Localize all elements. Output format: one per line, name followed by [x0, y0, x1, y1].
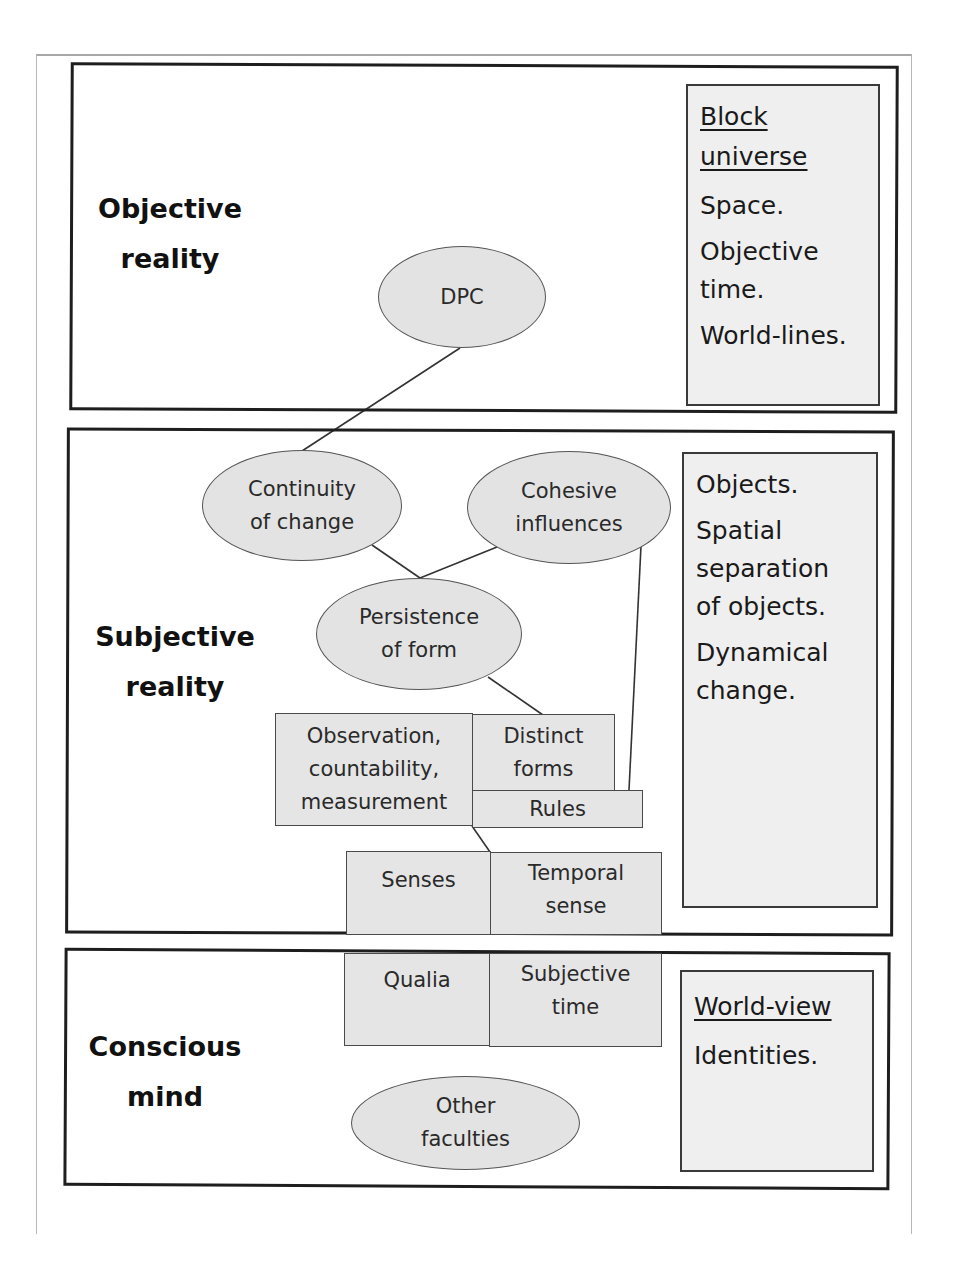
node-distinct-forms: Distinct forms — [472, 714, 615, 791]
node-label: Observation, — [307, 720, 442, 753]
section-label-conscious-mind: Conscious mind — [80, 1022, 250, 1122]
label-line: reality — [80, 234, 260, 284]
node-label: Senses — [381, 864, 455, 897]
side-box-item: Space. — [700, 187, 866, 225]
node-label: sense — [545, 890, 606, 923]
label-line: mind — [80, 1072, 250, 1122]
node-label: Other — [436, 1090, 496, 1123]
node-label: Persistence — [359, 601, 479, 634]
side-box-item: Objects. — [696, 466, 864, 504]
node-continuity-of-change: Continuity of change — [202, 450, 402, 561]
label-line: Objective — [80, 184, 260, 234]
node-qualia: Qualia — [344, 953, 490, 1046]
side-box-item: Dynamical change. — [696, 634, 856, 710]
side-box-item: Spatial separation of objects. — [696, 512, 856, 626]
node-label: forms — [514, 753, 574, 786]
node-label: time — [552, 991, 599, 1024]
node-label: Cohesive — [521, 475, 617, 508]
label-line: Subjective — [80, 612, 270, 662]
node-dpc: DPC — [378, 246, 546, 348]
side-box-heading: World-view — [694, 986, 860, 1027]
side-box-block-universe: Block universe Space. Objective time. Wo… — [686, 84, 880, 406]
node-subjective-time: Subjective time — [489, 953, 662, 1047]
side-box-heading: Block — [700, 98, 866, 136]
node-label: of form — [381, 634, 457, 667]
label-line: reality — [80, 662, 270, 712]
node-label: Qualia — [383, 964, 450, 997]
label-line: Conscious — [80, 1022, 250, 1072]
node-label: Distinct — [503, 720, 583, 753]
node-persistence-of-form: Persistence of form — [316, 578, 522, 690]
node-label: Rules — [529, 793, 586, 826]
node-rules: Rules — [472, 790, 643, 828]
side-box-item: World-lines. — [700, 317, 866, 355]
node-temporal-sense: Temporal sense — [490, 852, 662, 935]
side-box-heading: universe — [700, 136, 866, 177]
node-label: Temporal — [528, 857, 624, 890]
side-box-subjective-reality: Objects. Spatial separation of objects. … — [682, 452, 878, 908]
node-observation: Observation, countability, measurement — [275, 713, 473, 826]
side-box-world-view: World-view Identities. — [680, 970, 874, 1172]
node-cohesive-influences: Cohesive influences — [467, 451, 671, 564]
node-other-faculties: Other faculties — [351, 1076, 580, 1170]
node-label: influences — [515, 508, 622, 541]
node-label: Subjective — [521, 958, 631, 991]
node-senses: Senses — [346, 851, 491, 935]
side-box-item: Identities. — [694, 1037, 860, 1075]
node-label: of change — [250, 506, 354, 539]
node-label: Continuity — [248, 473, 356, 506]
node-label: countability, — [309, 753, 439, 786]
section-label-subjective-reality: Subjective reality — [80, 612, 270, 712]
node-label: faculties — [421, 1123, 510, 1156]
side-box-item: Objective time. — [700, 233, 840, 309]
section-label-objective-reality: Objective reality — [80, 184, 260, 284]
node-label: DPC — [440, 281, 484, 314]
node-label: measurement — [301, 786, 448, 819]
